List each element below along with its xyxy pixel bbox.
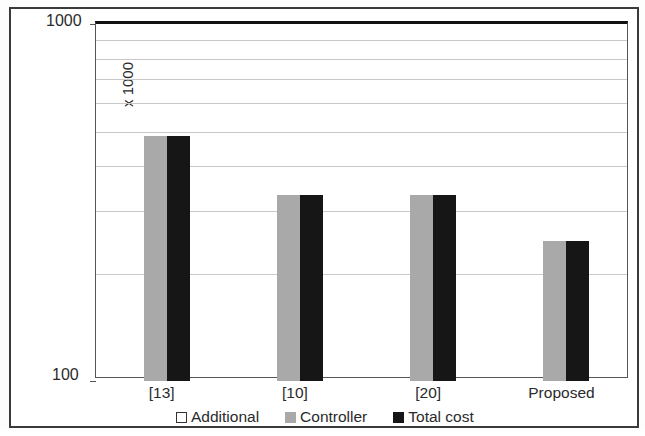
chart-legend: AdditionalControllerTotal cost xyxy=(176,408,474,426)
bar xyxy=(144,136,167,381)
x-axis-label-0: [13] xyxy=(95,384,228,402)
gridline xyxy=(96,132,627,133)
x-axis-label-2: [20] xyxy=(362,384,495,402)
legend-label: Total cost xyxy=(408,408,473,426)
figure-container: 1000 100 Nand Gate eq. area (Log.) x 100… xyxy=(0,0,645,436)
gridline xyxy=(96,79,627,80)
legend-item-controller[interactable]: Controller xyxy=(285,408,367,426)
legend-label: Additional xyxy=(191,408,259,426)
bar xyxy=(167,136,190,381)
y-axis-units-label: x 1000 xyxy=(119,40,136,130)
gridline xyxy=(96,103,627,104)
scan-edge xyxy=(0,431,645,436)
y-axis-tickmark xyxy=(90,381,96,382)
gridline xyxy=(96,59,627,60)
y-axis-top-tick-label: 1000 xyxy=(46,12,82,30)
legend-swatch-icon xyxy=(176,412,187,423)
x-axis-label-3: Proposed xyxy=(495,384,628,402)
x-axis-label-1: [10] xyxy=(228,384,361,402)
bar xyxy=(277,195,300,381)
bar xyxy=(433,195,456,381)
y-axis-tickmark xyxy=(90,24,96,25)
legend-label: Controller xyxy=(300,408,367,426)
legend-swatch-icon xyxy=(393,412,404,423)
bar xyxy=(410,195,433,381)
legend-item-additional[interactable]: Additional xyxy=(176,408,259,426)
bar xyxy=(300,195,323,381)
legend-item-total[interactable]: Total cost xyxy=(393,408,473,426)
bar xyxy=(543,241,566,381)
legend-swatch-icon xyxy=(285,412,296,423)
y-axis-bottom-tick-label: 100 xyxy=(52,366,79,384)
plot-area: Nand Gate eq. area (Log.) x 1000 xyxy=(95,21,628,378)
gridline xyxy=(96,40,627,41)
bar xyxy=(566,241,589,381)
